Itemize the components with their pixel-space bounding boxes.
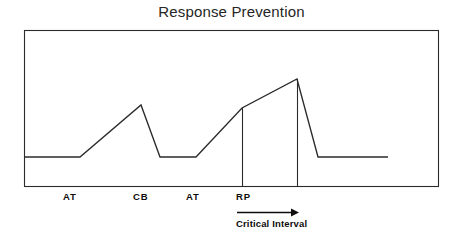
plot-frame (25, 31, 439, 187)
event-label-rp: RP (236, 191, 251, 202)
critical-interval-arrow-head (291, 209, 299, 217)
event-label-at-second: AT (186, 191, 200, 202)
anxiety-curve (25, 79, 388, 157)
event-label-at-first: AT (63, 191, 77, 202)
response-prevention-figure: Response Prevention AT CB AT RP Critical… (0, 0, 463, 237)
annotation-critical-interval: Critical Interval (236, 218, 307, 230)
event-label-cb: CB (133, 191, 149, 202)
